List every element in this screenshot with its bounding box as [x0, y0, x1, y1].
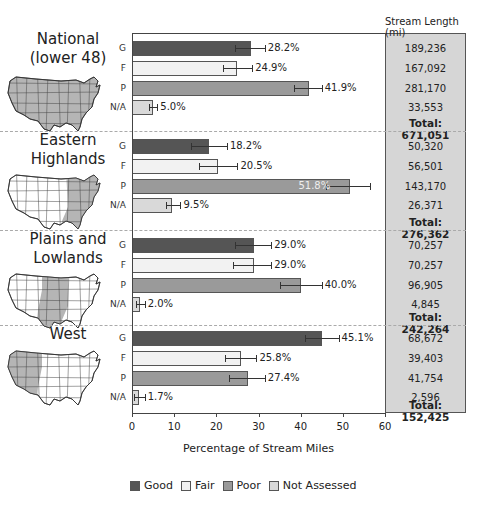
- value-label: 45.1%: [342, 332, 374, 343]
- category-label: G: [96, 240, 126, 250]
- stream-length-value: 56,501: [385, 161, 466, 172]
- error-cap: [256, 355, 257, 362]
- error-cap: [199, 163, 200, 170]
- x-tick-label: 40: [286, 421, 316, 432]
- error-cap: [191, 143, 192, 150]
- error-cap: [280, 282, 281, 289]
- legend: GoodFairPoorNot Assessed: [130, 479, 365, 492]
- category-label: N/A: [96, 392, 126, 402]
- stream-length-value: 96,905: [385, 280, 466, 291]
- x-tick: [301, 413, 302, 417]
- error-cap: [271, 262, 272, 269]
- category-label: F: [96, 353, 126, 363]
- legend-swatch: [181, 481, 191, 491]
- error-cap: [294, 85, 295, 92]
- error-cap: [157, 104, 158, 111]
- stream-length-total: Total: 152,425: [385, 399, 466, 423]
- error-bar: [233, 265, 271, 266]
- error-bar: [305, 338, 339, 339]
- x-axis-label: Percentage of Stream Miles: [132, 442, 385, 455]
- legend-label: Not Assessed: [283, 479, 357, 492]
- error-cap: [233, 262, 234, 269]
- legend-item: Poor: [223, 479, 261, 492]
- error-bar: [223, 68, 253, 69]
- stream-length-value: 41,754: [385, 373, 466, 384]
- error-bar: [280, 285, 322, 286]
- error-cap: [136, 301, 137, 308]
- error-cap: [225, 355, 226, 362]
- stream-length-value: 33,553: [385, 102, 466, 113]
- stream-length-value: 143,170: [385, 181, 466, 192]
- value-label: 18.2%: [230, 140, 262, 151]
- category-label: N/A: [96, 102, 126, 112]
- value-label: 25.8%: [259, 352, 291, 363]
- legend-label: Fair: [195, 479, 215, 492]
- error-cap: [265, 375, 266, 382]
- error-bar: [235, 48, 265, 49]
- bar-p: [132, 278, 301, 293]
- value-label: 29.0%: [274, 259, 306, 270]
- stream-length-value: 70,257: [385, 240, 466, 251]
- value-label: 2.0%: [148, 298, 173, 309]
- x-tick: [343, 413, 344, 417]
- value-label: 27.4%: [268, 372, 300, 383]
- bar-p: [132, 81, 309, 96]
- x-tick-label: 10: [159, 421, 189, 432]
- us-map-icon: [6, 347, 102, 409]
- plot-top-border: [132, 33, 385, 34]
- category-label: P: [96, 83, 126, 93]
- error-cap: [180, 202, 181, 209]
- category-label: N/A: [96, 200, 126, 210]
- stream-length-value: 26,371: [385, 200, 466, 211]
- stream-length-value: 39,403: [385, 353, 466, 364]
- value-label: 5.0%: [160, 101, 185, 112]
- category-label: N/A: [96, 299, 126, 309]
- x-tick: [259, 413, 260, 417]
- stream-length-total: Total: 671,051: [385, 117, 466, 141]
- error-cap: [227, 143, 228, 150]
- legend-swatch: [269, 481, 279, 491]
- bar-f: [132, 61, 237, 76]
- value-label: 41.9%: [325, 82, 357, 93]
- value-label: 29.0%: [274, 239, 306, 250]
- error-cap: [235, 242, 236, 249]
- x-tick: [216, 413, 217, 417]
- category-label: F: [96, 63, 126, 73]
- error-bar: [326, 186, 370, 187]
- legend-label: Poor: [237, 479, 261, 492]
- stream-length-value: 68,672: [385, 333, 466, 344]
- error-cap: [265, 45, 266, 52]
- legend-swatch: [223, 481, 233, 491]
- error-bar: [294, 88, 321, 89]
- legend-swatch: [130, 481, 140, 491]
- stream-length-value: 167,092: [385, 63, 466, 74]
- error-cap: [237, 163, 238, 170]
- legend-item: Fair: [181, 479, 215, 492]
- x-tick-label: 30: [244, 421, 274, 432]
- y-axis: [132, 33, 133, 413]
- error-cap: [134, 394, 135, 401]
- category-label: G: [96, 141, 126, 151]
- x-tick: [385, 413, 386, 417]
- error-cap: [235, 45, 236, 52]
- error-cap: [166, 202, 167, 209]
- category-label: P: [96, 373, 126, 383]
- stream-length-total: Total: 242,264: [385, 311, 466, 335]
- error-bar: [134, 397, 145, 398]
- stream-length-value: 70,257: [385, 260, 466, 271]
- x-tick-label: 50: [328, 421, 358, 432]
- legend-item: Not Assessed: [269, 479, 357, 492]
- stream-length-title: Stream Length (mi): [385, 16, 480, 38]
- error-cap: [370, 183, 371, 190]
- category-label: G: [96, 333, 126, 343]
- value-label: 51.8%: [298, 180, 330, 191]
- error-cap: [145, 394, 146, 401]
- value-label: 20.5%: [240, 160, 272, 171]
- error-cap: [145, 301, 146, 308]
- x-tick: [174, 413, 175, 417]
- error-bar: [166, 205, 181, 206]
- error-cap: [229, 375, 230, 382]
- error-bar: [191, 146, 227, 147]
- value-label: 1.7%: [148, 391, 173, 402]
- stream-length-value: 4,845: [385, 299, 466, 310]
